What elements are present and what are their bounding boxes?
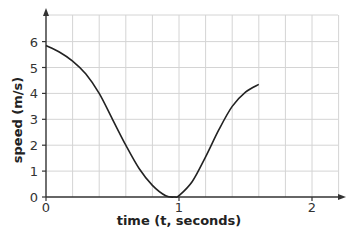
y-axis-label: speed (m/s) [10,77,25,163]
y-axis-arrow-icon [43,8,49,16]
x-tick-label: 2 [308,200,316,215]
x-axis-arrow-icon [338,194,346,200]
y-tick-label: 1 [30,164,38,179]
y-tick-label: 4 [30,86,38,101]
x-axis-label: time (t, seconds) [117,213,242,228]
grid [46,15,339,197]
y-tick-label: 5 [30,61,38,76]
x-tick-label: 0 [42,200,50,215]
y-tick-label: 0 [30,190,38,205]
y-tick-label: 2 [30,138,38,153]
y-tick-label: 3 [30,112,38,127]
y-tick-label: 6 [30,35,38,50]
speed-time-chart: 0123456012 time (t, seconds) speed (m/s) [0,0,349,231]
